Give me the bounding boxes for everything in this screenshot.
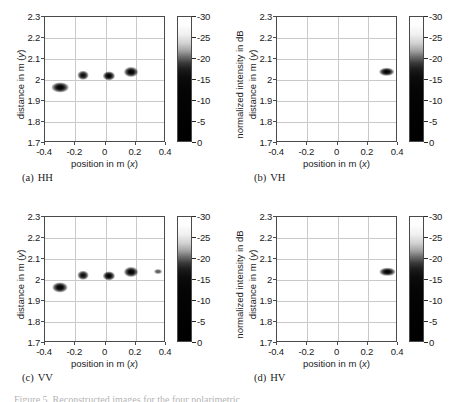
- colorbar-tick: [424, 100, 428, 101]
- colorbar-tick: [192, 58, 196, 59]
- colorbar-tick: [424, 300, 428, 301]
- gridline-horizontal: [45, 238, 164, 239]
- gridline-horizontal: [277, 38, 396, 39]
- gridline-horizontal: [277, 80, 396, 81]
- colorbar-tick: [192, 300, 196, 301]
- x-tick-label: 0: [334, 346, 339, 357]
- y-tick: [41, 16, 44, 17]
- gridline-horizontal: [277, 238, 396, 239]
- panel-caption-hv: (d)HV: [254, 372, 285, 383]
- plot-area-hh[interactable]: [44, 16, 165, 142]
- x-tick: [397, 142, 398, 145]
- gridline-horizontal: [45, 322, 164, 323]
- colorbar-tick-label: -15: [429, 274, 442, 285]
- x-tick-label: 0.4: [391, 346, 404, 357]
- colorbar-tick: [424, 58, 428, 59]
- y-tick: [41, 121, 44, 122]
- colorbar-tick-label: -10: [429, 95, 442, 106]
- gridline-horizontal: [45, 38, 164, 39]
- y-tick-label: 2.3: [246, 11, 272, 22]
- x-tick: [306, 142, 307, 145]
- y-axis-title: distance in m (y): [247, 225, 258, 345]
- x-tick: [337, 342, 338, 345]
- colorbar-tick: [192, 216, 196, 217]
- panel-caption-tag: (c): [22, 372, 34, 383]
- x-tick-label: -0.2: [66, 146, 82, 157]
- x-tick: [74, 342, 75, 345]
- panel-caption-tag: (d): [254, 372, 266, 383]
- x-tick-label: -0.2: [298, 146, 314, 157]
- colorbar-tick: [192, 121, 196, 122]
- y-axis-symbol: y: [15, 253, 26, 258]
- plot-area-hv[interactable]: [276, 216, 397, 342]
- colorbar[interactable]: [409, 16, 424, 142]
- colorbar-tick-label: 0: [429, 337, 434, 348]
- colorbar-tick-label: 0: [429, 137, 434, 148]
- gridline-horizontal: [45, 259, 164, 260]
- colorbar-tick-label: -10: [197, 95, 210, 106]
- x-tick-label: 0.4: [159, 346, 172, 357]
- panel-caption-label: HH: [38, 172, 53, 183]
- gridline-horizontal: [277, 280, 396, 281]
- x-tick: [306, 342, 307, 345]
- x-tick-label: 0.2: [128, 346, 141, 357]
- colorbar-tick-label: -30: [429, 211, 442, 222]
- x-tick-label: -0.4: [268, 146, 284, 157]
- colorbar-tick: [192, 279, 196, 280]
- y-axis-title: distance in m (y): [15, 225, 26, 345]
- x-axis-symbol: x: [130, 358, 135, 369]
- colorbar[interactable]: [409, 216, 424, 342]
- colorbar-tick: [424, 142, 428, 143]
- y-tick: [41, 100, 44, 101]
- colorbar-tick-label: -20: [429, 253, 442, 264]
- y-tick: [273, 216, 276, 217]
- y-tick: [273, 258, 276, 259]
- panel-caption-label: VH: [270, 172, 285, 183]
- colorbar-tick-label: -20: [429, 53, 442, 64]
- colorbar-tick-label: -10: [197, 295, 210, 306]
- y-tick-label: 2.3: [246, 211, 272, 222]
- colorbar-tick-label: -15: [197, 74, 210, 85]
- y-tick: [273, 142, 276, 143]
- panel-hh: -0.4-0.200.20.41.71.81.922.12.22.3positi…: [0, 0, 231, 196]
- gridline-horizontal: [45, 301, 164, 302]
- x-tick-label: -0.4: [36, 146, 52, 157]
- y-tick: [41, 216, 44, 217]
- colorbar-tick: [192, 100, 196, 101]
- y-tick: [41, 258, 44, 259]
- colorbar[interactable]: [177, 216, 192, 342]
- y-tick: [41, 300, 44, 301]
- gridline-horizontal: [277, 322, 396, 323]
- panel-caption-label: HV: [270, 372, 285, 383]
- x-axis-title: position in m (x): [44, 158, 165, 169]
- y-tick: [41, 142, 44, 143]
- colorbar-tick-label: -25: [197, 32, 210, 43]
- colorbar-tick: [192, 237, 196, 238]
- colorbar-tick-label: -30: [197, 11, 210, 22]
- colorbar[interactable]: [177, 16, 192, 142]
- x-tick: [105, 142, 106, 145]
- x-axis-symbol: x: [362, 158, 367, 169]
- colorbar-tick: [424, 237, 428, 238]
- panel-caption-vh: (b)VH: [254, 172, 285, 183]
- colorbar-tick: [192, 79, 196, 80]
- colorbar-tick-label: -30: [429, 11, 442, 22]
- plot-area-vh[interactable]: [276, 16, 397, 142]
- x-tick-label: 0: [102, 346, 107, 357]
- x-tick: [367, 342, 368, 345]
- x-tick-label: -0.4: [268, 346, 284, 357]
- colorbar-tick-label: -10: [429, 295, 442, 306]
- y-tick: [41, 279, 44, 280]
- colorbar-tick: [192, 142, 196, 143]
- x-tick-label: 0.4: [391, 146, 404, 157]
- plot-area-vv[interactable]: [44, 216, 165, 342]
- figure-caption: Figure 5. Reconstructed images for the f…: [14, 394, 454, 402]
- y-tick: [41, 58, 44, 59]
- y-tick: [273, 279, 276, 280]
- colorbar-tick: [192, 342, 196, 343]
- colorbar-tick-label: -5: [429, 316, 437, 327]
- y-tick: [41, 237, 44, 238]
- panel-caption-vv: (c)VV: [22, 372, 53, 383]
- colorbar-tick-label: -20: [197, 253, 210, 264]
- colorbar-tick: [192, 37, 196, 38]
